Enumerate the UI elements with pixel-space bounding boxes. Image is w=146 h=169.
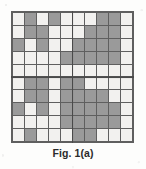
grid-cell <box>25 90 36 102</box>
grid-cell <box>49 26 60 38</box>
grid-cell <box>13 116 24 128</box>
grid-cell <box>37 39 48 51</box>
grid-cell <box>121 116 132 128</box>
grid-cell <box>25 13 36 25</box>
grid-cell <box>13 65 24 77</box>
grid-cell <box>25 26 36 38</box>
grid-cell <box>85 103 96 115</box>
grid-cell <box>13 90 24 102</box>
grid-cell <box>61 65 72 77</box>
figure-caption: Fig. 1(a) <box>0 147 146 159</box>
grid-cell <box>97 103 108 115</box>
grid-cell <box>73 13 84 25</box>
grid-cell <box>37 116 48 128</box>
grid-cell <box>49 90 60 102</box>
grid-cell <box>61 77 72 89</box>
grid-cell <box>97 13 108 25</box>
grid-cell <box>121 39 132 51</box>
grid-cell <box>121 52 132 64</box>
grid-cell <box>13 13 24 25</box>
grid-cell <box>109 116 120 128</box>
grid-cell <box>25 52 36 64</box>
grid-cell <box>49 129 60 141</box>
grid-cell <box>13 26 24 38</box>
grid-cell <box>61 129 72 141</box>
grid-cell <box>37 13 48 25</box>
grid-cell <box>49 52 60 64</box>
grid-cell <box>97 26 108 38</box>
grid-cell <box>25 39 36 51</box>
grid-cell <box>109 39 120 51</box>
grid-cell <box>85 129 96 141</box>
grid-cell <box>85 90 96 102</box>
grid-cell <box>73 26 84 38</box>
grid-cell <box>13 39 24 51</box>
grid-cell <box>85 77 96 89</box>
grid-cell <box>73 65 84 77</box>
grid-cell <box>73 52 84 64</box>
grid-cell <box>85 52 96 64</box>
grid-cell <box>49 39 60 51</box>
grid-cell <box>109 65 120 77</box>
grid-cell <box>49 13 60 25</box>
grid-cell <box>121 90 132 102</box>
cell-grid <box>11 11 134 143</box>
grid-cell <box>25 116 36 128</box>
grid-cell <box>109 103 120 115</box>
grid-cell <box>13 52 24 64</box>
grid-cell <box>37 90 48 102</box>
grid-cell <box>109 77 120 89</box>
grid-cell <box>49 77 60 89</box>
grid-cell <box>109 13 120 25</box>
grid-cell <box>73 129 84 141</box>
grid-cell <box>73 77 84 89</box>
grid-cell <box>121 129 132 141</box>
grid-cell <box>37 129 48 141</box>
grid-cell <box>85 65 96 77</box>
grid-cell <box>37 52 48 64</box>
grid-cell <box>85 39 96 51</box>
grid-cell <box>49 65 60 77</box>
grid-cell <box>49 116 60 128</box>
grid-cell <box>121 65 132 77</box>
grid-cell <box>61 116 72 128</box>
grid-cell <box>61 103 72 115</box>
grid-cell <box>109 90 120 102</box>
grid-cell <box>97 116 108 128</box>
grid-cell <box>73 103 84 115</box>
grid-cell <box>97 39 108 51</box>
grid-cell <box>73 90 84 102</box>
grid-wrapper <box>11 11 134 143</box>
grid-cell <box>25 77 36 89</box>
grid-cell <box>61 13 72 25</box>
grid-cell <box>25 103 36 115</box>
grid-cell <box>109 26 120 38</box>
grid-cell <box>121 13 132 25</box>
grid-cell <box>61 90 72 102</box>
grid-cell <box>49 103 60 115</box>
grid-cell <box>73 39 84 51</box>
grid-cell <box>85 26 96 38</box>
grid-cell <box>121 77 132 89</box>
grid-cell <box>97 129 108 141</box>
grid-cell <box>61 26 72 38</box>
grid-cell <box>13 77 24 89</box>
grid-cell <box>97 77 108 89</box>
grid-cell <box>121 26 132 38</box>
grid-cell <box>61 52 72 64</box>
grid-cell <box>37 103 48 115</box>
figure-container: Fig. 1(a) <box>0 0 146 169</box>
grid-cell <box>109 129 120 141</box>
grid-cell <box>37 65 48 77</box>
grid-cell <box>85 13 96 25</box>
grid-cell <box>109 52 120 64</box>
grid-cell <box>25 129 36 141</box>
grid-cell <box>37 77 48 89</box>
grid-cell <box>73 116 84 128</box>
grid-cell <box>97 65 108 77</box>
grid-cell <box>97 52 108 64</box>
grid-cell <box>25 65 36 77</box>
grid-cell <box>13 103 24 115</box>
grid-cell <box>121 103 132 115</box>
grid-cell <box>13 129 24 141</box>
